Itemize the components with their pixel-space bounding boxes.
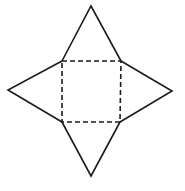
triangle-face-bottom [62, 122, 120, 176]
triangle-face-left [8, 61, 62, 122]
diagram-svg [0, 0, 185, 191]
triangle-face-right [120, 61, 172, 122]
square-base-dashed [62, 61, 121, 122]
pyramid-net-diagram [0, 0, 185, 191]
triangle-face-top [62, 6, 121, 61]
triangular-faces [8, 6, 172, 176]
